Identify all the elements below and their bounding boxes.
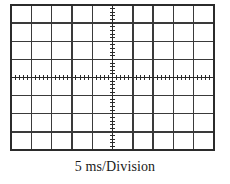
graticule-svg [0,0,230,155]
oscilloscope-figure: 5 ms/Division [0,0,230,184]
time-base-caption: 5 ms/Division [0,158,230,176]
graticule [0,0,230,155]
